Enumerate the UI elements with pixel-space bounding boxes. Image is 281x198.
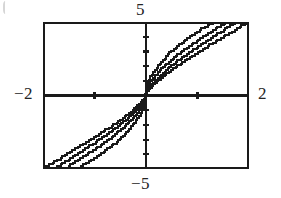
y-axis-max-label: 5 [0,1,281,18]
figure-root: 5 −5 −2 2 [0,0,281,198]
y-axis-min-label: −5 [0,175,281,192]
x-axis-min-label: −2 [14,85,33,102]
plot-area [43,22,249,169]
x-axis-max-label: 2 [258,85,267,102]
plot-canvas [43,22,249,169]
